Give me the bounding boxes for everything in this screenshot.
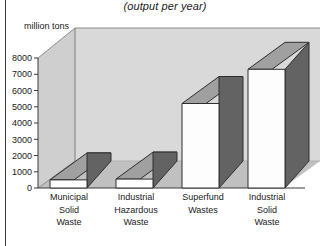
x-label-line: Waste [234,216,300,229]
x-label-line: Solid [234,204,300,217]
bar-industrial-solid-waste [248,42,309,188]
x-label-line: Wastes [168,204,238,217]
x-label-superfund-wastes: Superfund Wastes [168,191,238,216]
bar-4-front [248,69,285,188]
left-wall [38,28,75,188]
bar-1-front [50,180,87,188]
bar-3-front [182,104,219,189]
x-label-industrial-hazardous-waste: Industrial Hazardous Waste [101,191,171,229]
x-label-line: Waste [36,216,102,229]
x-axis-labels: Municipal Solid Waste Industrial Hazardo… [0,191,330,246]
x-label-line: Hazardous [101,204,171,217]
chart-root: (output per year) million tons 8000 7000… [0,0,330,246]
x-label-industrial-solid-waste: Industrial Solid Waste [234,191,300,229]
y-tick-marks [34,58,38,188]
x-label-line: Solid [36,204,102,217]
x-label-line: Superfund [168,191,238,204]
x-label-municipal-solid-waste: Municipal Solid Waste [36,191,102,229]
bar-2-front [116,179,153,188]
x-label-line: Industrial [101,191,171,204]
x-label-line: Municipal [36,191,102,204]
x-label-line: Waste [101,216,171,229]
x-label-line: Industrial [234,191,300,204]
